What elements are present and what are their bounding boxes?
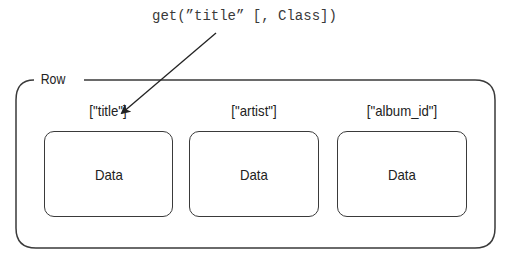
diagram-canvas: get(”title” [, Class]) Row ["title"] Dat… [0, 0, 511, 263]
row-container-label: Row [38, 70, 68, 88]
arrow-line [122, 33, 216, 113]
column-key-title: ["title"] [52, 102, 165, 120]
data-cell-artist: Data [189, 131, 319, 217]
data-cell-label: Data [388, 166, 416, 183]
column-key-artist: ["artist"] [197, 102, 311, 120]
data-cell-label: Data [240, 166, 268, 183]
column-key-album-id: ["album_id"] [345, 102, 459, 120]
data-cell-title: Data [44, 131, 173, 217]
data-cell-album-id: Data [337, 131, 467, 217]
method-call-label: get(”title” [, Class]) [152, 8, 382, 24]
data-cell-label: Data [95, 166, 123, 183]
